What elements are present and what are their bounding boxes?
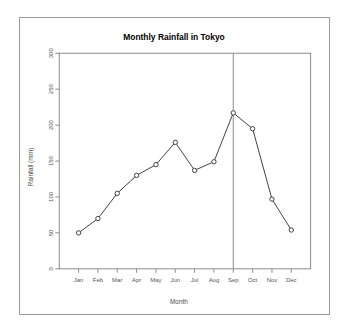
data-point-marker — [270, 197, 274, 201]
x-tick-label: Sep — [228, 277, 239, 283]
screenshot-root: Monthly Rainfall in Tokyo Rainfall (mm) … — [0, 0, 344, 333]
data-series-layer — [79, 113, 292, 233]
x-tick-label: Apr — [132, 277, 141, 283]
data-point-marker — [173, 140, 177, 144]
x-tick-label: Dec — [286, 277, 297, 283]
x-tick-label: Feb — [93, 277, 104, 283]
data-point-marker — [76, 231, 80, 235]
x-tick-label: Jan — [74, 277, 84, 283]
x-tick-label: Jul — [191, 277, 199, 283]
x-tick-label: Nov — [267, 277, 278, 283]
data-point-markers — [76, 111, 293, 235]
x-tick-label: Aug — [209, 277, 220, 283]
chart-canvas: Monthly Rainfall in Tokyo Rainfall (mm) … — [20, 18, 329, 314]
plot-area-border — [59, 53, 310, 269]
x-tick-label: Oct — [248, 277, 258, 283]
data-point-marker — [134, 173, 138, 177]
data-point-marker — [231, 111, 235, 115]
y-tick-label: 150 — [48, 155, 54, 166]
y-axis-title: Rainfall (mm) — [27, 148, 35, 186]
data-point-marker — [289, 228, 293, 232]
data-point-marker — [115, 191, 119, 195]
x-axis-ticks: JanFebMarAprMayJunJulAugSepOctNovDec — [74, 269, 297, 283]
y-tick-label: 250 — [48, 84, 54, 95]
x-tick-label: Mar — [112, 277, 122, 283]
y-tick-label: 100 — [48, 191, 54, 202]
y-tick-label: 0 — [48, 266, 54, 270]
y-tick-label: 300 — [48, 48, 54, 59]
y-tick-label: 200 — [48, 119, 54, 130]
figure-frame: Monthly Rainfall in Tokyo Rainfall (mm) … — [19, 17, 330, 315]
y-axis-ticks: 050100150200250300 — [48, 48, 59, 271]
chart-title: Monthly Rainfall in Tokyo — [123, 32, 225, 42]
series-line-rainfall — [79, 113, 292, 233]
x-tick-label: Jun — [170, 277, 180, 283]
data-point-marker — [192, 168, 196, 172]
data-point-marker — [154, 162, 158, 166]
y-tick-label: 50 — [48, 229, 54, 236]
x-axis-title: Month — [170, 298, 188, 305]
x-tick-label: May — [150, 277, 161, 283]
data-point-marker — [212, 160, 216, 164]
rainfall-line-chart: Monthly Rainfall in Tokyo Rainfall (mm) … — [20, 18, 329, 314]
data-point-marker — [96, 216, 100, 220]
data-point-marker — [250, 127, 254, 131]
